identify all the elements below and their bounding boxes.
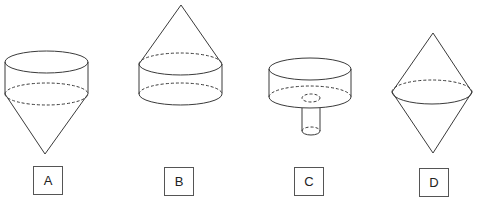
option-label-d: D [419, 168, 449, 197]
shape-d-double-cone [392, 33, 472, 153]
option-label-b: B [164, 167, 194, 196]
shape-c-cylinder-with-tube [269, 58, 351, 135]
solids-figure [0, 0, 479, 206]
option-label-c: C [294, 167, 324, 196]
option-label-a: A [33, 166, 63, 195]
shape-a-cylinder-with-cone-below [5, 51, 88, 154]
shape-b-cone-on-cylinder [139, 5, 222, 105]
